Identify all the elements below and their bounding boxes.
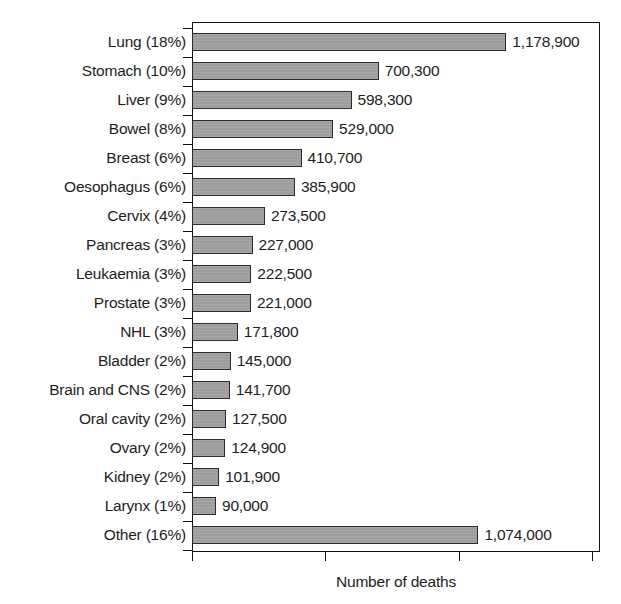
- y-axis-tick: [183, 347, 192, 348]
- y-axis-tick: [183, 202, 192, 203]
- category-label: Leukaemia (3%): [0, 265, 186, 283]
- category-label: Breast (6%): [0, 149, 186, 167]
- value-label: 1,074,000: [484, 526, 551, 544]
- y-axis-tick: [183, 318, 192, 319]
- value-label: 598,300: [358, 91, 413, 109]
- value-label: 227,000: [259, 236, 314, 254]
- category-label: Pancreas (3%): [0, 236, 186, 254]
- category-label: Brain and CNS (2%): [0, 381, 186, 399]
- category-label: Ovary (2%): [0, 439, 186, 457]
- category-label: Larynx (1%): [0, 497, 186, 515]
- category-label: Bladder (2%): [0, 352, 186, 370]
- y-axis-tick: [183, 144, 192, 145]
- category-label: Other (16%): [0, 526, 186, 544]
- value-label: 127,500: [232, 410, 287, 428]
- y-axis-tick: [183, 57, 192, 58]
- x-axis-ticks: [192, 552, 602, 564]
- value-label: 410,700: [308, 149, 363, 167]
- category-label: Oesophagus (6%): [0, 178, 186, 196]
- bar-chart: Lung (18%)Stomach (10%)Liver (9%)Bowel (…: [0, 0, 621, 604]
- category-label: Bowel (8%): [0, 120, 186, 138]
- value-label: 124,900: [231, 439, 286, 457]
- value-label: 529,000: [339, 120, 394, 138]
- category-label: Stomach (10%): [0, 62, 186, 80]
- y-axis-tick: [183, 405, 192, 406]
- y-axis-tick: [183, 173, 192, 174]
- y-axis-tick: [183, 550, 192, 551]
- category-label: NHL (3%): [0, 323, 186, 341]
- category-label: Oral cavity (2%): [0, 410, 186, 428]
- y-axis-tick: [183, 463, 192, 464]
- y-axis-tick: [183, 492, 192, 493]
- y-axis-tick: [183, 28, 192, 29]
- category-label-column: Lung (18%)Stomach (10%)Liver (9%)Bowel (…: [0, 22, 186, 552]
- y-axis-tick: [183, 521, 192, 522]
- value-label: 273,500: [271, 207, 326, 225]
- value-label: 222,500: [257, 265, 312, 283]
- category-label: Liver (9%): [0, 91, 186, 109]
- y-axis-tick: [183, 289, 192, 290]
- value-labels-layer: 1,178,900700,300598,300529,000410,700385…: [192, 22, 621, 552]
- x-axis-title: Number of deaths: [192, 573, 600, 591]
- x-axis-tick: [192, 552, 193, 561]
- value-label: 141,700: [236, 381, 291, 399]
- y-axis-tick: [183, 434, 192, 435]
- y-axis-tick: [183, 231, 192, 232]
- category-label: Lung (18%): [0, 33, 186, 51]
- value-label: 90,000: [222, 497, 268, 515]
- value-label: 700,300: [385, 62, 440, 80]
- category-label: Cervix (4%): [0, 207, 186, 225]
- value-label: 1,178,900: [512, 33, 579, 51]
- y-axis-tick: [183, 115, 192, 116]
- y-axis-tick: [183, 376, 192, 377]
- x-axis-tick: [592, 552, 593, 561]
- x-axis-tick: [325, 552, 326, 561]
- category-label: Kidney (2%): [0, 468, 186, 486]
- y-axis-tick: [183, 260, 192, 261]
- y-axis-tick: [183, 86, 192, 87]
- value-label: 145,000: [237, 352, 292, 370]
- category-label: Prostate (3%): [0, 294, 186, 312]
- value-label: 385,900: [301, 178, 356, 196]
- y-axis-ticks: [183, 22, 195, 552]
- x-axis-tick: [459, 552, 460, 561]
- value-label: 101,900: [225, 468, 280, 486]
- value-label: 171,800: [244, 323, 299, 341]
- value-label: 221,000: [257, 294, 312, 312]
